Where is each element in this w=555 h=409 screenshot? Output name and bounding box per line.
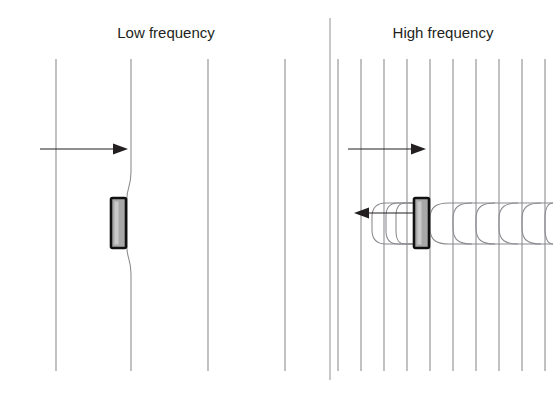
obstacle-high-frequency xyxy=(414,198,429,248)
figure-background xyxy=(0,0,555,409)
panel-title-high-frequency: High frequency xyxy=(393,24,494,41)
panel-title-low-frequency: Low frequency xyxy=(117,24,215,41)
obstacle-low-frequency xyxy=(111,198,126,248)
wave-diffraction-figure: Low frequency High frequency xyxy=(0,0,555,409)
